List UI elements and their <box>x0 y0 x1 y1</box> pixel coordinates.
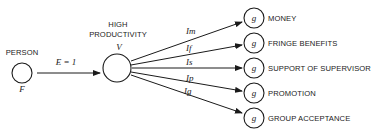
instrumentality-label-group: Ig <box>183 86 192 96</box>
outcome-sublabel: V <box>116 42 123 52</box>
effort-arrow: E = 1 <box>37 57 100 73</box>
instrumentality-label-promotion: Ip <box>185 73 194 83</box>
outcome-label-line2: PRODUCTIVITY <box>89 30 147 39</box>
goal-promotion: g PROMOTION <box>244 83 316 103</box>
goal-label-promotion: PROMOTION <box>268 89 316 98</box>
goal-symbol: g <box>252 38 257 48</box>
goal-label-group-acceptance: GROUP ACCEPTANCE <box>268 114 350 123</box>
goal-group-acceptance: g GROUP ACCEPTANCE <box>244 108 350 128</box>
instrumentality-label-money: Im <box>185 26 196 36</box>
instrumentality-label-fringe: If <box>185 43 193 53</box>
goal-money: g MONEY <box>244 8 296 28</box>
person-label: PERSON <box>6 48 39 57</box>
person-circle <box>12 63 32 83</box>
goal-symbol: g <box>252 88 257 98</box>
goal-label-fringe-benefits: FRINGE BENEFITS <box>268 39 337 48</box>
goal-symbol: g <box>252 13 257 23</box>
outcome-label-line1: HIGH <box>108 20 127 29</box>
instrumentality-label-supervisor: Is <box>185 57 193 67</box>
outcome-circle <box>103 54 131 82</box>
goal-symbol: g <box>252 113 257 123</box>
goal-fringe-benefits: g FRINGE BENEFITS <box>244 33 337 53</box>
expectancy-diagram: PERSON F E = 1 HIGH PRODUCTIVITY V Im If… <box>0 0 385 138</box>
goal-label-support-of-supervisor: SUPPORT OF SUPERVISOR <box>268 64 371 73</box>
person-node: PERSON F <box>6 48 39 94</box>
goal-support-of-supervisor: g SUPPORT OF SUPERVISOR <box>244 58 371 78</box>
goal-symbol: g <box>252 63 257 73</box>
effort-label: E = 1 <box>55 57 77 67</box>
goal-label-money: MONEY <box>268 14 296 23</box>
person-sublabel: F <box>18 84 25 94</box>
instrumentality-arrows: Im If Is Ip Ig <box>131 22 242 113</box>
